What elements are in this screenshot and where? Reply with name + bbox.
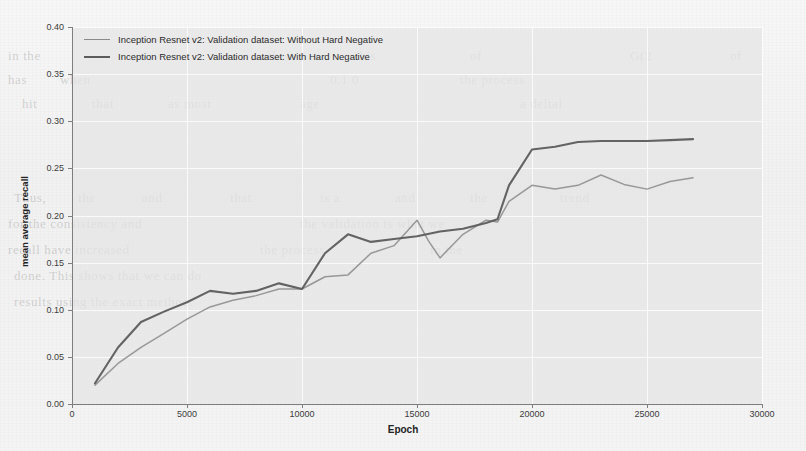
x-tick-mark <box>72 404 73 408</box>
x-tick-label: 10000 <box>289 409 314 419</box>
y-tick-mark <box>68 168 72 169</box>
y-tick-mark <box>68 263 72 264</box>
chart-legend: Inception Resnet v2: Validation dataset:… <box>80 31 389 65</box>
y-tick-label: 0.30 <box>28 116 64 126</box>
x-tick-label: 5000 <box>177 409 197 419</box>
legend-line-swatch <box>84 39 110 40</box>
series-lines <box>0 0 806 451</box>
y-tick-mark <box>68 216 72 217</box>
y-axis-title: mean average recall <box>19 152 30 292</box>
legend-item[interactable]: Inception Resnet v2: Validation dataset:… <box>84 34 383 45</box>
legend-label: Inception Resnet v2: Validation dataset:… <box>118 34 383 45</box>
x-tick-label: 20000 <box>519 409 544 419</box>
x-tick-mark <box>647 404 648 408</box>
y-tick-mark <box>68 404 72 405</box>
y-tick-mark <box>68 27 72 28</box>
x-tick-mark <box>417 404 418 408</box>
y-tick-mark <box>68 74 72 75</box>
y-tick-label: 0.40 <box>28 22 64 32</box>
x-tick-label: 25000 <box>634 409 659 419</box>
y-tick-label: 0.00 <box>28 399 64 409</box>
x-tick-mark <box>302 404 303 408</box>
legend-label: Inception Resnet v2: Validation dataset:… <box>118 51 370 62</box>
y-tick-mark <box>68 310 72 311</box>
y-axis-line <box>72 27 73 404</box>
x-axis-title: Epoch <box>0 424 806 435</box>
y-tick-label: 0.35 <box>28 69 64 79</box>
y-tick-mark <box>68 357 72 358</box>
x-tick-label: 30000 <box>749 409 774 419</box>
series-line <box>95 175 693 385</box>
y-tick-label: 0.10 <box>28 305 64 315</box>
x-tick-mark <box>187 404 188 408</box>
x-tick-label: 0 <box>69 409 74 419</box>
legend-item[interactable]: Inception Resnet v2: Validation dataset:… <box>84 51 383 62</box>
y-tick-mark <box>68 121 72 122</box>
y-tick-label: 0.20 <box>28 211 64 221</box>
y-tick-label: 0.25 <box>28 163 64 173</box>
y-tick-label: 0.15 <box>28 258 64 268</box>
chart-figure: 050001000015000200002500030000 0.000.050… <box>0 0 806 451</box>
x-tick-mark <box>532 404 533 408</box>
x-tick-label: 15000 <box>404 409 429 419</box>
x-tick-mark <box>762 404 763 408</box>
legend-line-swatch <box>84 56 110 58</box>
y-tick-label: 0.05 <box>28 352 64 362</box>
